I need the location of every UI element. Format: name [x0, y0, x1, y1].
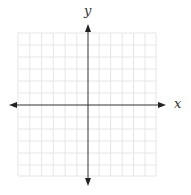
x-axis-right-arrow-icon	[158, 102, 166, 108]
x-axis-label: x	[174, 96, 182, 111]
coordinate-plane: y x	[0, 0, 191, 195]
y-axis-top-arrow-icon	[85, 24, 91, 32]
y-axis-label: y	[83, 3, 92, 18]
y-axis-bottom-arrow-icon	[85, 178, 91, 186]
x-axis-left-arrow-icon	[9, 102, 17, 108]
